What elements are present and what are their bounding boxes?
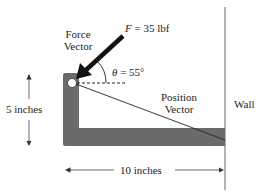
position-vector-label-line2: Vector <box>157 103 201 115</box>
angle-equation: θ = 55° <box>112 66 145 78</box>
pivot-hole <box>68 79 77 88</box>
force-vector-label-line1: Force <box>59 28 97 40</box>
force-vector-label: Force Vector <box>59 28 97 52</box>
force-vector-label-line2: Vector <box>59 40 97 52</box>
force-variable: F <box>125 22 132 34</box>
height-dimension-label: 5 inches <box>6 103 42 115</box>
angle-value: = 55° <box>117 66 144 78</box>
angle-arc <box>98 62 106 83</box>
wall-label: Wall <box>234 98 255 110</box>
width-dimension-label: 10 inches <box>120 164 162 176</box>
position-vector-label: Position Vector <box>157 91 201 115</box>
force-equation: F = 35 lbf <box>125 22 169 34</box>
force-value: = 35 lbf <box>132 22 170 34</box>
position-vector-label-line1: Position <box>157 91 201 103</box>
